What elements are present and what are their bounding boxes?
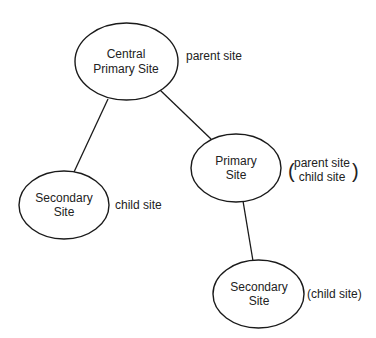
node-secondary-site-left: Secondary Site [19, 171, 109, 239]
node-label-line1: Primary [215, 154, 256, 168]
annotation-parent-site: parent site [186, 49, 242, 63]
node-label-line1: Central [107, 47, 146, 61]
node-label-line2: Site [226, 168, 247, 182]
node-label-line1: Secondary [35, 191, 92, 205]
annotation-parent-site: parent site [294, 156, 350, 170]
node-label-line2: Primary Site [93, 62, 159, 76]
annotation-close-bracket: ) [352, 160, 359, 182]
node-secondary-site-bottom: Secondary Site [213, 260, 304, 328]
annotation-child-site: child site [115, 198, 162, 212]
edge-central-to-secondary-left [74, 99, 108, 172]
edge-central-to-primary [160, 90, 211, 139]
node-label-line1: Secondary [230, 280, 287, 294]
edge-primary-to-secondary-bottom [243, 201, 253, 261]
site-hierarchy-diagram: Central Primary Site parent site Primary… [0, 0, 376, 338]
node-primary-site: Primary Site [191, 134, 281, 202]
node-label-line2: Site [54, 205, 75, 219]
node-central-primary-site: Central Primary Site [75, 23, 178, 100]
annotation-child-site: (child site) [307, 287, 362, 301]
node-label-line2: Site [249, 294, 270, 308]
annotation-child-site: child site [299, 170, 346, 184]
